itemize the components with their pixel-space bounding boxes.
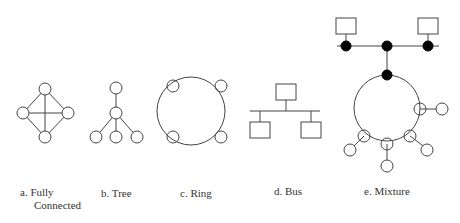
label-bus: d. Bus (274, 185, 302, 198)
mixture-topology (336, 18, 448, 172)
label-mixture: e. Mixture (364, 185, 410, 198)
label-prefix: c. (180, 187, 188, 199)
label-ring: c. Ring (180, 187, 212, 200)
label-title: Mixture (374, 185, 409, 197)
label-title: Fully (30, 186, 53, 198)
label-title: Ring (190, 187, 211, 199)
bus-topology (250, 84, 321, 138)
ring-topology (157, 77, 227, 145)
label-prefix: b. (101, 187, 109, 199)
label-prefix: e. (364, 185, 372, 197)
label-title-line2: Connected (20, 199, 81, 212)
fully-connected-topology (17, 83, 74, 143)
label-prefix: d. (274, 185, 282, 197)
label-prefix: a. (20, 186, 28, 198)
tree-topology (90, 82, 143, 143)
label-title: Tree (112, 187, 132, 199)
label-tree: b. Tree (101, 187, 132, 200)
label-fully-connected: a. Fully Connected (20, 186, 81, 212)
label-title: Bus (285, 185, 302, 197)
